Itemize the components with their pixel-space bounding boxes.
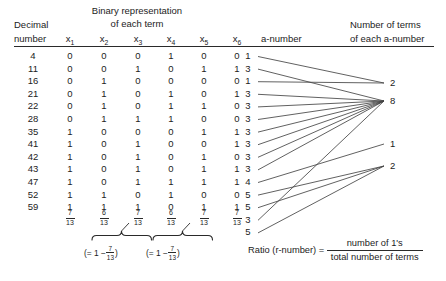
bit-cell-x4: 0 (163, 75, 179, 88)
bit-cell-x1: 0 (62, 63, 78, 76)
decimal-number-cell: 28 (12, 113, 54, 126)
bit-cell-x2: 0 (96, 176, 112, 189)
bit-cell-x5: 0 (196, 113, 212, 126)
bit-cell-x1: 0 (62, 100, 78, 113)
bit-cell-x5: 1 (196, 100, 212, 113)
decimal-number-cell: 42 (12, 151, 54, 164)
bit-cell-x5: 1 (196, 63, 212, 76)
bit-cell-x4: 1 (163, 50, 179, 63)
brace-note-left: (= 1 −713) (84, 245, 118, 262)
bit-cell-x3: 0 (130, 75, 146, 88)
a-number-cell: 3 (240, 100, 256, 113)
bit-cell-x5: 1 (196, 126, 212, 139)
fraction-numerator: 7 (227, 209, 247, 217)
bit-cell-x1: 1 (62, 151, 78, 164)
bit-cell-x1: 1 (62, 176, 78, 189)
decimal-number-cell: 11 (12, 63, 54, 76)
header-decimal-line1: Decimal (14, 19, 48, 30)
a-number-cell: 4 (240, 176, 256, 189)
column-fraction-x5: 713 (194, 209, 214, 228)
bit-cell-x3: 1 (130, 176, 146, 189)
bit-cell-x2: 1 (96, 189, 112, 202)
bit-cell-x3: 0 (130, 100, 146, 113)
decimal-number-cell: 21 (12, 88, 54, 101)
bit-cell-x2: 0 (96, 126, 112, 139)
a-number-cell: 3 (240, 126, 256, 139)
column-fraction-x4: 613 (161, 209, 181, 228)
table-row: 351000113 (0, 126, 446, 139)
header-binary-line2: of each term (57, 18, 217, 29)
bit-cell-x2: 1 (96, 113, 112, 126)
figure-root: Decimal number Binary representation of … (0, 0, 446, 281)
bit-cell-x2: 0 (96, 50, 112, 63)
decimal-number-cell: 47 (12, 176, 54, 189)
header-a-number: a-number (261, 33, 302, 44)
column-fraction-x3: 713 (128, 209, 148, 228)
bit-cell-x2: 1 (96, 75, 112, 88)
table-row: 280111003 (0, 113, 446, 126)
bit-cell-x2: 0 (96, 163, 112, 176)
a-number-cell: 5 (240, 189, 256, 202)
bit-cell-x4: 0 (163, 63, 179, 76)
term-count-1: 1 (390, 138, 395, 149)
a-number-cell: 3 (240, 138, 256, 151)
bit-cell-x4: 1 (163, 189, 179, 202)
bit-cell-x4: 1 (163, 100, 179, 113)
bit-cell-x1: 0 (62, 88, 78, 101)
table-row: 220101103 (0, 100, 446, 113)
bit-cell-x1: 0 (62, 50, 78, 63)
bit-cell-x3: 0 (130, 88, 146, 101)
table-row: 471011114 (0, 176, 446, 189)
column-fraction-row: 713613713613713713 (0, 209, 446, 231)
decimal-number-cell: 22 (12, 100, 54, 113)
table-row: 40001001 (0, 50, 446, 63)
fraction-numerator: 6 (94, 209, 114, 217)
fraction-numerator: 7 (128, 209, 148, 217)
table-row: 110010113 (0, 63, 446, 76)
bit-cell-x4: 0 (163, 163, 179, 176)
bit-cell-x5: 0 (196, 50, 212, 63)
bit-cell-x3: 1 (130, 113, 146, 126)
bit-cell-x5: 1 (196, 176, 212, 189)
fraction-denominator: 13 (60, 219, 80, 227)
bit-cell-x5: 0 (196, 189, 212, 202)
bit-cell-x5: 0 (196, 75, 212, 88)
bit-cell-x5: 0 (196, 138, 212, 151)
ratio-formula: Ratio (r-number) = number of 1's total n… (248, 238, 423, 263)
fraction-denominator: 13 (94, 219, 114, 227)
fraction-denominator: 13 (161, 219, 181, 227)
term-count-8: 8 (390, 95, 395, 106)
a-number-cell: 1 (240, 75, 256, 88)
header-terms-line2: of each a-number (350, 33, 424, 44)
fraction-numerator: 7 (194, 209, 214, 217)
bit-cell-x3: 1 (130, 163, 146, 176)
bit-cell-x2: 1 (96, 100, 112, 113)
bit-cell-x4: 0 (163, 126, 179, 139)
bit-cell-x1: 0 (62, 113, 78, 126)
a-number-cell: 3 (240, 63, 256, 76)
table-row: 521101005 (0, 189, 446, 202)
a-number-cell: 3 (240, 113, 256, 126)
decimal-number-cell: 4 (12, 50, 54, 63)
bit-cell-x3: 0 (130, 126, 146, 139)
bit-cell-x4: 1 (163, 113, 179, 126)
data-table: 4000100111001011316010000121010101322010… (0, 50, 446, 214)
column-fraction-x6: 713 (227, 209, 247, 228)
ratio-denominator: total number of terms (327, 251, 423, 263)
decimal-number-cell: 41 (12, 138, 54, 151)
column-fraction-x1: 713 (60, 209, 80, 228)
header-terms-line1: Number of terms (350, 19, 421, 30)
header-decimal-line2: number (14, 33, 46, 44)
a-number-cell: 1 (240, 50, 256, 63)
table-row: 411010013 (0, 138, 446, 151)
bit-cell-x3: 1 (130, 63, 146, 76)
bit-cell-x4: 1 (163, 88, 179, 101)
bit-cell-x3: 1 (130, 151, 146, 164)
bit-cell-x3: 0 (130, 50, 146, 63)
table-row: 431010113 (0, 163, 446, 176)
bit-cell-x3: 1 (130, 138, 146, 151)
bit-cell-x5: 1 (196, 163, 212, 176)
ratio-numerator: number of 1's (327, 238, 423, 250)
decimal-number-cell: 35 (12, 126, 54, 139)
decimal-number-cell: 43 (12, 163, 54, 176)
